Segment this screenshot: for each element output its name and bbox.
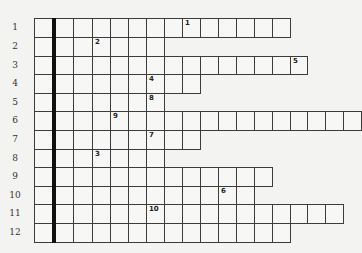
grid-cell[interactable] bbox=[236, 111, 255, 131]
grid-cell[interactable] bbox=[290, 204, 308, 224]
grid-cell[interactable] bbox=[92, 130, 111, 150]
grid-cell[interactable] bbox=[182, 167, 201, 187]
grid-cell[interactable] bbox=[73, 111, 93, 131]
grid-cell[interactable] bbox=[218, 167, 237, 187]
grid-cell[interactable] bbox=[92, 167, 111, 187]
grid-cell[interactable] bbox=[218, 111, 237, 131]
grid-cell[interactable] bbox=[34, 186, 54, 205]
grid-cell[interactable]: 9 bbox=[110, 111, 129, 131]
grid-cell[interactable] bbox=[34, 18, 54, 38]
grid-cell[interactable] bbox=[53, 18, 74, 38]
grid-cell[interactable] bbox=[53, 149, 74, 168]
grid-cell[interactable] bbox=[128, 56, 147, 75]
grid-cell[interactable] bbox=[146, 56, 165, 75]
grid-cell[interactable] bbox=[73, 18, 93, 38]
grid-cell[interactable] bbox=[128, 18, 147, 38]
grid-cell[interactable] bbox=[236, 186, 255, 205]
grid-cell[interactable] bbox=[200, 167, 219, 187]
grid-cell[interactable] bbox=[254, 18, 273, 38]
grid-cell[interactable] bbox=[110, 56, 129, 75]
grid-cell[interactable]: 7 bbox=[146, 130, 165, 150]
grid-cell[interactable] bbox=[34, 93, 54, 112]
grid-cell[interactable] bbox=[73, 204, 93, 224]
grid-cell[interactable] bbox=[128, 74, 147, 94]
grid-cell[interactable] bbox=[164, 56, 183, 75]
grid-cell[interactable] bbox=[34, 204, 54, 224]
grid-cell[interactable] bbox=[128, 204, 147, 224]
grid-cell[interactable] bbox=[110, 74, 129, 94]
grid-cell[interactable] bbox=[164, 130, 183, 150]
grid-cell[interactable]: 8 bbox=[146, 93, 165, 112]
grid-cell[interactable] bbox=[73, 223, 93, 243]
grid-cell[interactable]: 4 bbox=[146, 74, 165, 94]
grid-cell[interactable] bbox=[200, 204, 219, 224]
grid-cell[interactable] bbox=[182, 204, 201, 224]
grid-cell[interactable] bbox=[200, 223, 219, 243]
grid-cell[interactable] bbox=[325, 204, 344, 224]
grid-cell[interactable] bbox=[128, 93, 147, 112]
grid-cell[interactable] bbox=[34, 111, 54, 131]
grid-cell[interactable] bbox=[146, 223, 165, 243]
grid-cell[interactable] bbox=[200, 186, 219, 205]
grid-cell[interactable] bbox=[146, 149, 165, 168]
grid-cell[interactable] bbox=[218, 18, 237, 38]
grid-cell[interactable] bbox=[92, 18, 111, 38]
grid-cell[interactable] bbox=[343, 111, 362, 131]
grid-cell[interactable]: 1 bbox=[182, 18, 201, 38]
grid-cell[interactable] bbox=[254, 204, 273, 224]
grid-cell[interactable] bbox=[164, 74, 183, 94]
grid-cell[interactable] bbox=[236, 167, 255, 187]
grid-cell[interactable] bbox=[218, 204, 237, 224]
grid-cell[interactable]: 3 bbox=[92, 149, 111, 168]
grid-cell[interactable] bbox=[34, 223, 54, 243]
grid-cell[interactable] bbox=[53, 186, 74, 205]
grid-cell[interactable] bbox=[53, 93, 74, 112]
grid-cell[interactable] bbox=[73, 167, 93, 187]
grid-cell[interactable] bbox=[182, 74, 201, 94]
grid-cell[interactable] bbox=[164, 204, 183, 224]
grid-cell[interactable] bbox=[254, 56, 273, 75]
grid-cell[interactable] bbox=[92, 111, 111, 131]
grid-cell[interactable] bbox=[92, 74, 111, 94]
grid-cell[interactable] bbox=[200, 18, 219, 38]
grid-cell[interactable] bbox=[34, 167, 54, 187]
grid-cell[interactable] bbox=[73, 186, 93, 205]
grid-cell[interactable] bbox=[34, 74, 54, 94]
grid-cell[interactable] bbox=[34, 37, 54, 57]
grid-cell[interactable] bbox=[200, 111, 219, 131]
grid-cell[interactable] bbox=[110, 93, 129, 112]
grid-cell[interactable] bbox=[146, 186, 165, 205]
grid-cell[interactable] bbox=[200, 56, 219, 75]
grid-cell[interactable] bbox=[53, 56, 74, 75]
grid-cell[interactable] bbox=[146, 37, 165, 57]
grid-cell[interactable] bbox=[272, 111, 291, 131]
grid-cell[interactable] bbox=[128, 223, 147, 243]
grid-cell[interactable] bbox=[110, 149, 129, 168]
grid-cell[interactable] bbox=[128, 37, 147, 57]
grid-cell[interactable]: 5 bbox=[290, 56, 308, 75]
grid-cell[interactable] bbox=[290, 111, 308, 131]
grid-cell[interactable] bbox=[236, 204, 255, 224]
grid-cell[interactable]: 2 bbox=[92, 37, 111, 57]
grid-cell[interactable] bbox=[128, 186, 147, 205]
grid-cell[interactable] bbox=[34, 130, 54, 150]
grid-cell[interactable] bbox=[110, 204, 129, 224]
grid-cell[interactable]: 10 bbox=[146, 204, 165, 224]
grid-cell[interactable] bbox=[164, 167, 183, 187]
grid-cell[interactable] bbox=[272, 223, 291, 243]
grid-cell[interactable] bbox=[110, 18, 129, 38]
grid-cell[interactable] bbox=[73, 74, 93, 94]
grid-cell[interactable] bbox=[73, 130, 93, 150]
grid-cell[interactable] bbox=[307, 204, 326, 224]
grid-cell[interactable] bbox=[254, 167, 273, 187]
grid-cell[interactable] bbox=[254, 223, 273, 243]
grid-cell[interactable] bbox=[272, 56, 291, 75]
grid-cell[interactable] bbox=[92, 223, 111, 243]
grid-cell[interactable] bbox=[34, 149, 54, 168]
grid-cell[interactable] bbox=[182, 111, 201, 131]
grid-cell[interactable] bbox=[110, 223, 129, 243]
grid-cell[interactable] bbox=[307, 111, 326, 131]
grid-cell[interactable] bbox=[53, 204, 74, 224]
grid-cell[interactable] bbox=[272, 204, 291, 224]
grid-cell[interactable] bbox=[53, 223, 74, 243]
